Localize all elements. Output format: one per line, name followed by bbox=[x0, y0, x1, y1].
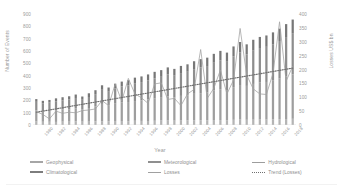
bar-segment bbox=[61, 122, 63, 125]
x-axis-ticks: 1980198219841986198819901992199419961998… bbox=[33, 126, 296, 146]
bar-segment bbox=[272, 81, 274, 120]
bar-segment bbox=[81, 97, 83, 100]
bar-segment bbox=[107, 105, 109, 121]
legend-item-trend-losses[interactable]: Trend (Losses) bbox=[250, 167, 332, 177]
x-tick-label: 2014 bbox=[267, 126, 278, 137]
plot-region: 9008007006005004003002001000 Number of E… bbox=[0, 0, 343, 140]
bar-segment bbox=[35, 102, 37, 111]
bar-segment bbox=[68, 99, 70, 109]
bar-segment bbox=[219, 51, 221, 60]
bar-segment bbox=[68, 122, 70, 125]
x-tick-label: 1988 bbox=[96, 126, 107, 137]
x-tick-label: 1990 bbox=[109, 126, 120, 137]
x-axis-title: Year bbox=[0, 147, 320, 153]
legend-swatch-icon bbox=[148, 161, 161, 163]
y-axis-right-title: Losses US$ bn bbox=[328, 20, 334, 82]
bar-segment bbox=[173, 69, 175, 76]
bar-segment bbox=[167, 97, 169, 121]
bar-segment bbox=[140, 76, 142, 82]
bar-segment bbox=[252, 51, 254, 84]
disaster-events-losses-chart: 9008007006005004003002001000 Number of E… bbox=[0, 0, 343, 195]
bar-segment bbox=[154, 121, 156, 125]
bar-segment bbox=[193, 94, 195, 121]
legend-label: Losses bbox=[164, 170, 180, 175]
y-axis-right: 400350300250200150100500 bbox=[297, 14, 319, 125]
x-tick-label: 1984 bbox=[70, 126, 81, 137]
x-tick-label: 1994 bbox=[136, 126, 147, 137]
bar-segment bbox=[147, 74, 149, 80]
x-tick-label: 1982 bbox=[57, 126, 68, 137]
bar-segment bbox=[186, 120, 188, 125]
bar-segment bbox=[134, 121, 136, 125]
bar-segment bbox=[61, 110, 63, 122]
chart-canvas bbox=[33, 14, 296, 125]
bar-segment bbox=[121, 82, 123, 87]
y-tick-label-right: 150 bbox=[299, 81, 319, 86]
x-tick-label: 1998 bbox=[162, 126, 173, 137]
y-tick-label-right: 250 bbox=[299, 53, 319, 58]
bar-segment bbox=[206, 66, 208, 93]
bar-segment bbox=[127, 102, 129, 121]
legend-swatch-icon bbox=[252, 162, 265, 163]
bar-segment bbox=[167, 67, 169, 74]
bar-segment bbox=[232, 120, 234, 125]
y-tick-label-left: 0 bbox=[1, 123, 31, 128]
bar-segment bbox=[200, 120, 202, 125]
bar-segment bbox=[259, 83, 261, 120]
legend-item-geophysical[interactable]: Geophysical bbox=[22, 157, 142, 167]
bar-segment bbox=[81, 110, 83, 122]
bar-segment bbox=[265, 47, 267, 82]
y-tick-label-right: 350 bbox=[299, 25, 319, 30]
plot-area bbox=[33, 14, 296, 125]
legend-item-losses[interactable]: Losses bbox=[142, 167, 250, 177]
bar-segment bbox=[68, 96, 70, 99]
bar-segment bbox=[180, 73, 182, 96]
y-tick-label-left: 100 bbox=[1, 110, 31, 115]
bar-segment bbox=[42, 101, 44, 103]
x-tick-label: 2018 bbox=[293, 126, 304, 137]
bar-segment bbox=[107, 88, 109, 92]
bar-segment bbox=[114, 103, 116, 121]
bar-segment bbox=[265, 82, 267, 120]
bar-segment bbox=[88, 97, 90, 108]
bar-segment bbox=[167, 74, 169, 96]
bar-segment bbox=[265, 35, 267, 46]
bar-segment bbox=[147, 80, 149, 99]
bar-segment bbox=[226, 62, 228, 90]
bar-segment bbox=[55, 122, 57, 125]
bar-segment bbox=[193, 61, 195, 69]
bar-segment bbox=[252, 40, 254, 51]
bar-segment bbox=[272, 32, 274, 44]
x-tick-label: 2012 bbox=[254, 126, 265, 137]
y-tick-label-left: 200 bbox=[1, 98, 31, 103]
bar-segment bbox=[186, 95, 188, 120]
legend-item-meteorological[interactable]: Meteorological bbox=[142, 157, 250, 167]
bar-segment bbox=[219, 120, 221, 125]
bar-segment bbox=[200, 59, 202, 67]
bar-segment bbox=[75, 108, 77, 121]
bar-segment bbox=[180, 121, 182, 125]
bar-segment bbox=[180, 96, 182, 121]
bar-segment bbox=[121, 121, 123, 125]
bar-segment bbox=[173, 121, 175, 125]
bar-segment bbox=[127, 85, 129, 102]
bar-segment bbox=[101, 85, 103, 89]
y-tick-label-left: 300 bbox=[1, 86, 31, 91]
bar-segment bbox=[292, 20, 294, 34]
legend-item-hydrological[interactable]: Hydrological bbox=[250, 157, 332, 167]
bar-segment bbox=[94, 90, 96, 94]
bar-segment bbox=[292, 119, 294, 125]
bar-segment bbox=[167, 121, 169, 125]
bar-segment bbox=[140, 101, 142, 121]
legend-item-climatological[interactable]: Climatological bbox=[22, 167, 142, 177]
bar-segment bbox=[154, 99, 156, 121]
bar-segment bbox=[285, 119, 287, 125]
bar-segment bbox=[259, 48, 261, 83]
x-tick-label: 2006 bbox=[215, 126, 226, 137]
bar-segment bbox=[239, 85, 241, 120]
legend-label: Geophysical bbox=[46, 160, 73, 165]
bottom-divider bbox=[6, 184, 337, 185]
bar-segment bbox=[134, 101, 136, 121]
bar-segment bbox=[213, 90, 215, 120]
bar-segment bbox=[232, 87, 234, 120]
